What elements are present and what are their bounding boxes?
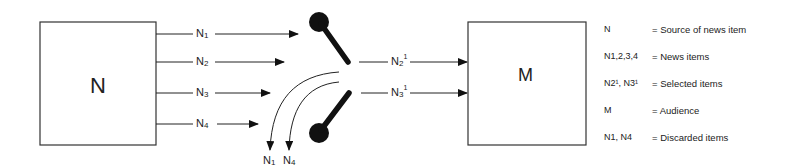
output-label-n2-prime: N21 bbox=[391, 56, 407, 68]
output-label-n3-prime: N31 bbox=[391, 87, 407, 99]
legend-key: N bbox=[604, 24, 611, 34]
discard-label-n4: N4 bbox=[283, 155, 295, 167]
legend-value: = Audience bbox=[652, 105, 699, 116]
news-gatekeeping-diagram: N M N1 N2 N3 N4 N21 N31 N1 N4 N = Source… bbox=[0, 0, 800, 168]
gate-switch-icon bbox=[309, 12, 349, 143]
legend-key: M bbox=[604, 105, 612, 115]
legend-key: N2¹, N3¹ bbox=[604, 78, 638, 88]
input-label-n4: N4 bbox=[196, 118, 208, 130]
input-label-n2: N2 bbox=[196, 56, 208, 68]
source-box-label: N bbox=[90, 73, 106, 99]
legend-value: = Source of news item bbox=[652, 24, 746, 35]
discard-label-n1: N1 bbox=[263, 155, 275, 167]
legend-value: = Discarded items bbox=[652, 132, 728, 143]
input-label-n3: N3 bbox=[196, 87, 208, 99]
input-label-n1: N1 bbox=[196, 28, 208, 40]
legend-value: = News items bbox=[652, 51, 709, 62]
legend-key: N1,2,3,4 bbox=[604, 51, 638, 61]
legend-value: = Selected items bbox=[652, 78, 723, 89]
audience-box-label: M bbox=[518, 65, 533, 86]
legend-key: N1, N4 bbox=[604, 132, 632, 142]
